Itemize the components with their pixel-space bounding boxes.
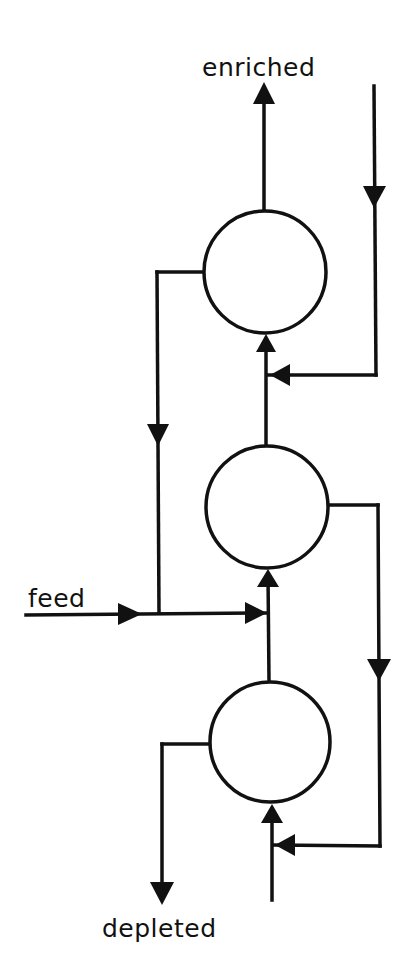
stage-middle	[206, 446, 328, 568]
arrow-down-icon	[147, 424, 169, 446]
arrow-down-icon	[363, 186, 386, 208]
arrow-up-icon	[256, 334, 276, 352]
arrow-up-icon	[253, 82, 275, 104]
enriched-label: enriched	[202, 53, 315, 82]
arrow-right-icon	[245, 602, 267, 624]
feed-label: feed	[28, 584, 85, 613]
depleted-output-flow	[150, 744, 208, 905]
arrow-left-icon	[275, 834, 295, 856]
bottom-to-middle-flow	[257, 569, 279, 681]
arrow-left-icon	[270, 364, 290, 386]
arrow-up-icon	[261, 804, 283, 823]
bottom-input-flow	[261, 804, 283, 900]
arrow-down-icon	[367, 659, 391, 681]
cascade-diagram: enriched feed depleted	[0, 0, 415, 980]
depleted-label: depleted	[102, 914, 217, 943]
top-left-recycle-flow	[147, 272, 203, 613]
arrow-up-icon	[257, 569, 279, 587]
arrow-right-icon	[118, 603, 142, 625]
enriched-output-flow	[253, 82, 275, 211]
arrow-down-icon	[150, 882, 174, 905]
stage-top	[204, 211, 326, 333]
stage-bottom	[210, 682, 330, 802]
middle-to-top-flow	[256, 334, 276, 446]
